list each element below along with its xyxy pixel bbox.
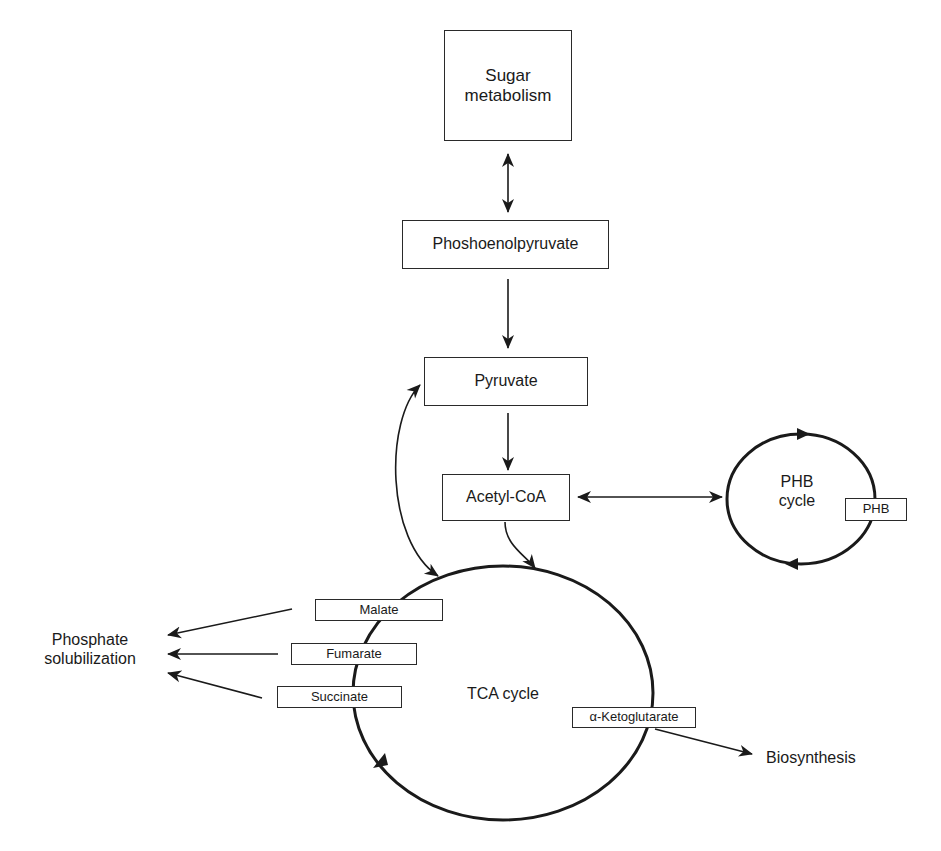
arrow-akg-biosynthesis [655,729,752,754]
node-phosphoenolpyruvate: Phoshoenolpyruvate [402,220,609,269]
arrow-pyruvate-tca [396,385,438,576]
node-succinate-label: Succinate [311,690,368,705]
phb-cycle-arrowhead-bottom [785,558,798,570]
node-malate: Malate [315,599,443,621]
node-acetyl-coa-label: Acetyl-CoA [466,488,546,506]
arrow-malate-phosphate [168,609,292,635]
node-alpha-ketoglutarate-label: α-Ketoglutarate [589,710,678,725]
node-succinate: Succinate [277,686,402,708]
phosphate-solubilization-label: Phosphate solubilization [25,630,155,668]
node-pyruvate: Pyruvate [424,357,588,406]
node-phb: PHB [845,498,907,521]
node-alpha-ketoglutarate: α-Ketoglutarate [572,707,696,728]
node-pyruvate-label: Pyruvate [474,372,537,390]
node-phosphoenolpyruvate-label: Phoshoenolpyruvate [433,235,579,253]
node-malate-label: Malate [359,603,398,618]
node-sugar-metabolism: Sugar metabolism [444,30,572,141]
node-sugar-metabolism-label: Sugar metabolism [465,66,552,105]
phb-cycle-label: PHB cycle [762,472,832,510]
node-acetyl-coa: Acetyl-CoA [442,474,570,521]
node-fumarate-label: Fumarate [326,647,382,662]
node-fumarate: Fumarate [291,643,417,665]
biosynthesis-label: Biosynthesis [766,748,886,767]
arrow-acetyl-tca [505,522,535,568]
phb-cycle-arrowhead-top [797,428,810,440]
tca-cycle-label: TCA cycle [453,684,553,703]
arrow-succinate-phosphate [168,673,262,698]
node-phb-label: PHB [863,502,890,517]
